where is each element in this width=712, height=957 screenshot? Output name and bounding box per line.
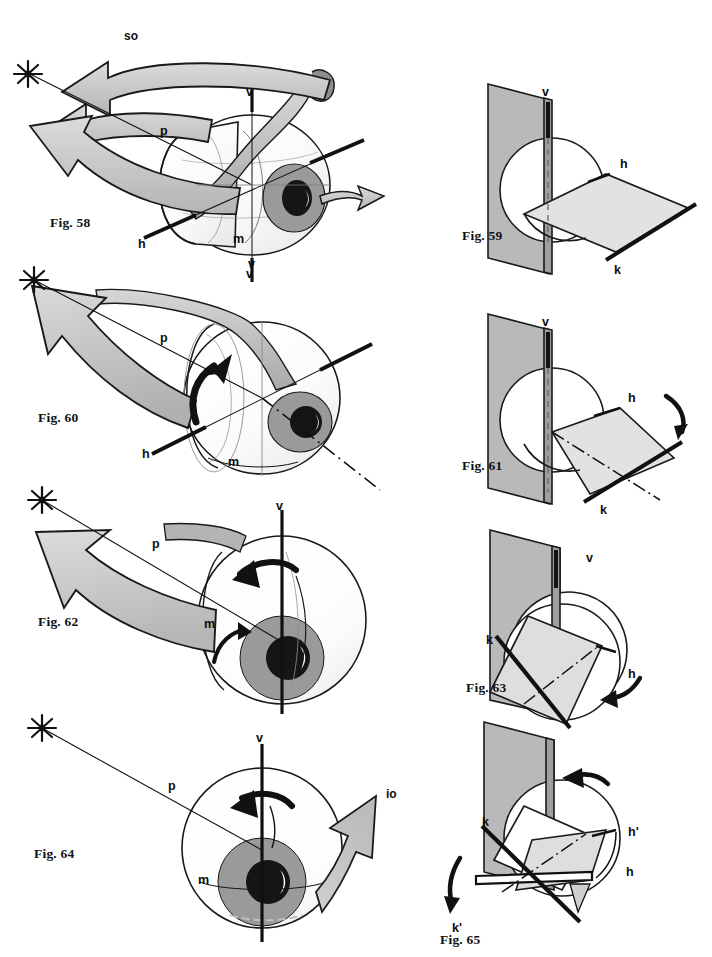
figure-62: v p m Fig. 62 [0, 492, 400, 732]
label-h: h [628, 667, 636, 681]
apex-star-icon [14, 61, 42, 87]
caption-fig62: Fig. 62 [38, 614, 78, 629]
label-m: m [204, 617, 215, 631]
caption-fig59: Fig. 59 [462, 228, 502, 243]
label-p: p [168, 779, 176, 793]
figure-60: p h m Fig. 60 [0, 262, 400, 512]
figure-61: v h k Fig. 61 [420, 292, 712, 522]
label-p: p [152, 537, 160, 551]
pupil [246, 860, 290, 904]
caption-fig61: Fig. 61 [462, 458, 502, 473]
figure-63: v k h Fig. 63 [420, 520, 712, 730]
caption-fig63: Fig. 63 [466, 680, 506, 695]
caption-fig65: Fig. 65 [440, 932, 480, 947]
tendon-band [164, 524, 246, 553]
figure-59: v h k Fig. 59 [420, 62, 712, 292]
caption-fig64: Fig. 64 [34, 846, 74, 861]
label-k: k [600, 503, 607, 517]
label-v: v [542, 85, 549, 99]
label-m: m [198, 873, 209, 887]
label-k: k [482, 815, 489, 829]
label-v: v [248, 257, 255, 271]
figure-64: v p m io Fig. 64 [0, 700, 400, 957]
figure-58: so v v p h m Fig. 58 [0, 0, 400, 290]
rotation-arrow [666, 396, 688, 440]
label-k: k [486, 633, 493, 647]
rotation-arrow-left [444, 858, 460, 914]
label-h: h [142, 447, 150, 461]
label-p: p [160, 331, 168, 345]
figure-65: k k' h' h Fig. 65 [420, 718, 712, 957]
label-v: v [586, 551, 593, 565]
caption-fig60: Fig. 60 [38, 410, 78, 425]
label-h-prime: h' [628, 825, 639, 839]
label-v: v [256, 731, 263, 745]
label-io: io [386, 787, 397, 801]
label-so: so [124, 29, 138, 43]
label-h: h [138, 237, 146, 251]
label-v: v [542, 315, 549, 329]
plane-tail [570, 884, 590, 912]
figure-plate: so v v p h m Fig. 58 [0, 0, 712, 957]
label-h: h [620, 157, 628, 171]
label-v: v [276, 499, 283, 513]
figure-58-v-bottom-label: v [238, 252, 278, 276]
arrow-main [36, 530, 216, 652]
label-m: m [233, 232, 244, 246]
label-k: k [614, 263, 621, 277]
caption-fig58: Fig. 58 [50, 215, 90, 230]
label-m: m [228, 455, 239, 469]
label-h: h [626, 865, 634, 879]
label-v-top: v [246, 85, 253, 99]
label-h: h [628, 391, 636, 405]
label-p: p [160, 124, 168, 138]
